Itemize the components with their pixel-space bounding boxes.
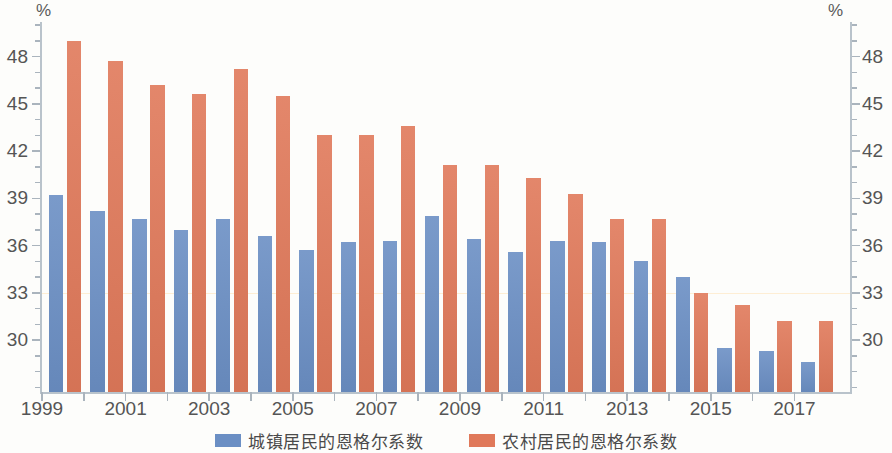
bar-rural-2012 xyxy=(610,219,625,392)
y-tick-right-36 xyxy=(852,245,860,247)
y-axis-unit-right: % xyxy=(828,1,843,21)
y-minor-tick-right-29 xyxy=(852,355,857,357)
bar-rural-2015 xyxy=(735,305,750,392)
bar-rural-2002 xyxy=(192,94,207,392)
y-minor-tick-right-28 xyxy=(852,371,857,373)
bar-rural-2013 xyxy=(652,219,667,392)
y-tick-left-42 xyxy=(32,150,40,152)
bar-urban-2009 xyxy=(467,239,482,392)
x-label-2017: 2017 xyxy=(764,398,824,420)
y-axis-unit-left: % xyxy=(36,1,51,21)
x-tick-2012 xyxy=(585,392,587,401)
bar-urban-2013 xyxy=(634,261,649,392)
legend: 城镇居民的恩格尔系数 农村居民的恩格尔系数 xyxy=(0,428,892,453)
y-minor-tick-left-35 xyxy=(35,261,40,263)
y-minor-tick-right-41 xyxy=(852,166,857,168)
bar-rural-2008 xyxy=(443,165,458,392)
y-minor-tick-left-47 xyxy=(35,72,40,74)
y-minor-tick-left-46 xyxy=(35,87,40,89)
y-label-right-30: 30 xyxy=(862,330,883,349)
y-tick-left-36 xyxy=(32,245,40,247)
x-tick-2008 xyxy=(417,392,419,401)
bar-urban-2015 xyxy=(717,348,732,392)
y-minor-tick-left-41 xyxy=(35,166,40,168)
x-tick-2010 xyxy=(501,392,503,401)
bar-urban-2012 xyxy=(592,242,607,392)
legend-label-rural: 农村居民的恩格尔系数 xyxy=(502,428,677,453)
y-tick-left-48 xyxy=(32,56,40,58)
y-minor-tick-left-37 xyxy=(35,229,40,231)
x-tick-2002 xyxy=(167,392,169,401)
y-tick-left-39 xyxy=(32,198,40,200)
legend-item-rural[interactable]: 农村居民的恩格尔系数 xyxy=(469,428,677,453)
y-minor-tick-right-47 xyxy=(852,72,857,74)
bar-rural-2000 xyxy=(108,61,123,392)
bar-urban-2001 xyxy=(132,219,147,392)
x-axis-line xyxy=(40,392,852,394)
y-minor-tick-right-46 xyxy=(852,87,857,89)
y-minor-tick-right-32 xyxy=(852,308,857,310)
y-label-right-42: 42 xyxy=(862,141,883,160)
bar-rural-2007 xyxy=(401,126,416,392)
x-label-2001: 2001 xyxy=(96,398,156,420)
bar-rural-2006 xyxy=(359,135,374,392)
bar-urban-2003 xyxy=(216,219,231,392)
y-label-left-30: 30 xyxy=(0,330,28,349)
y-minor-tick-left-29 xyxy=(35,355,40,357)
y-label-right-33: 33 xyxy=(862,283,883,302)
y-label-left-33: 33 xyxy=(0,283,28,302)
y-minor-tick-right-34 xyxy=(852,276,857,278)
x-tick-2000 xyxy=(83,392,85,401)
x-label-2015: 2015 xyxy=(681,398,741,420)
bar-rural-2004 xyxy=(276,96,291,392)
bar-rural-2003 xyxy=(234,69,249,392)
bar-rural-2014 xyxy=(694,293,709,392)
bar-urban-2014 xyxy=(676,277,691,392)
legend-label-urban: 城镇居民的恩格尔系数 xyxy=(248,428,423,453)
bar-urban-2004 xyxy=(258,236,273,392)
y-tick-left-30 xyxy=(32,339,40,341)
y-minor-tick-right-50 xyxy=(852,24,857,26)
y-minor-tick-left-38 xyxy=(35,213,40,215)
x-tick-2014 xyxy=(668,392,670,401)
y-tick-right-33 xyxy=(852,292,860,294)
y-minor-tick-left-34 xyxy=(35,276,40,278)
y-minor-tick-right-44 xyxy=(852,119,857,121)
bar-urban-2007 xyxy=(383,241,398,392)
y-tick-right-42 xyxy=(852,150,860,152)
y-minor-tick-left-44 xyxy=(35,119,40,121)
bar-urban-2016 xyxy=(759,351,774,392)
y-axis-right-line xyxy=(850,22,852,394)
y-minor-tick-left-49 xyxy=(35,40,40,42)
y-minor-tick-right-35 xyxy=(852,261,857,263)
bar-urban-2010 xyxy=(508,252,523,392)
y-minor-tick-right-43 xyxy=(852,135,857,137)
bar-urban-2008 xyxy=(425,216,440,392)
bar-rural-2011 xyxy=(568,194,583,392)
legend-item-urban[interactable]: 城镇居民的恩格尔系数 xyxy=(215,428,423,453)
bar-urban-2011 xyxy=(550,241,565,392)
y-label-right-36: 36 xyxy=(862,236,883,255)
bar-urban-2005 xyxy=(299,250,314,392)
y-tick-right-45 xyxy=(852,103,860,105)
x-label-2009: 2009 xyxy=(430,398,490,420)
y-minor-tick-left-50 xyxy=(35,24,40,26)
bar-rural-2009 xyxy=(485,165,500,392)
y-minor-tick-right-40 xyxy=(852,182,857,184)
y-minor-tick-left-43 xyxy=(35,135,40,137)
y-label-left-36: 36 xyxy=(0,236,28,255)
y-label-right-45: 45 xyxy=(862,94,883,113)
y-minor-tick-left-28 xyxy=(35,371,40,373)
x-label-2007: 2007 xyxy=(346,398,406,420)
bar-urban-2000 xyxy=(90,211,105,392)
bar-urban-2017 xyxy=(801,362,816,392)
bar-rural-2016 xyxy=(777,321,792,392)
y-axis-left-line xyxy=(40,22,42,394)
x-label-2003: 2003 xyxy=(179,398,239,420)
x-label-2013: 2013 xyxy=(597,398,657,420)
y-label-left-48: 48 xyxy=(0,47,28,66)
y-tick-left-33 xyxy=(32,292,40,294)
bar-rural-2017 xyxy=(819,321,834,392)
y-label-left-39: 39 xyxy=(0,188,28,207)
y-minor-tick-right-37 xyxy=(852,229,857,231)
